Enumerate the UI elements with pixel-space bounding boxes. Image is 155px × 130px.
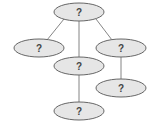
node-label: ?: [76, 106, 82, 117]
edge-root-left: [47, 19, 64, 40]
node-label: ?: [118, 43, 124, 54]
node-label: ?: [118, 83, 124, 94]
node-middle: ?: [54, 57, 104, 75]
node-label: ?: [36, 43, 42, 54]
node-right-child: ?: [96, 79, 146, 97]
node-middle-child: ?: [54, 102, 104, 120]
node-right: ?: [96, 39, 146, 57]
node-root: ?: [54, 3, 104, 21]
tree-diagram: ? ? ? ? ? ?: [0, 0, 155, 130]
node-label: ?: [76, 61, 82, 72]
node-left: ?: [14, 39, 64, 57]
edge-root-right: [96, 19, 112, 40]
node-label: ?: [76, 7, 82, 18]
